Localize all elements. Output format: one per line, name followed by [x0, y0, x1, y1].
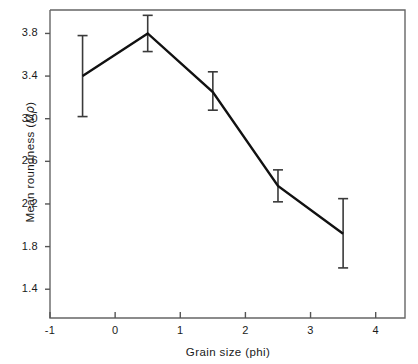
x-tick-label: 0 [103, 324, 127, 336]
y-axis-title-rho: ρ [23, 106, 37, 114]
axis-box [50, 10, 405, 318]
x-tick-label: -1 [38, 324, 62, 336]
x-axis-title: Grain size (phi) [50, 346, 406, 358]
x-tick-label: 2 [233, 324, 257, 336]
x-tick-marks [50, 312, 376, 318]
x-tick-label: 4 [364, 324, 388, 336]
y-axis-title-m: M [24, 113, 36, 123]
y-axis-title-suffix: ) [24, 102, 36, 106]
x-tick-label: 1 [168, 324, 192, 336]
x-tick-label: 3 [299, 324, 323, 336]
y-axis-title-prefix: Mean roundness ( [24, 123, 36, 222]
data-line [83, 33, 344, 233]
y-tick-label: 1.4 [8, 282, 38, 294]
y-tick-marks [45, 33, 50, 289]
chart-figure: 1.41.82.22.63.03.43.8 -101234 Mean round… [0, 0, 418, 364]
y-tick-label: 3.8 [8, 26, 38, 38]
y-axis-title: Mean roundness (Mρ) [23, 72, 37, 252]
axis-frame [50, 10, 405, 318]
plot-area [0, 0, 418, 364]
